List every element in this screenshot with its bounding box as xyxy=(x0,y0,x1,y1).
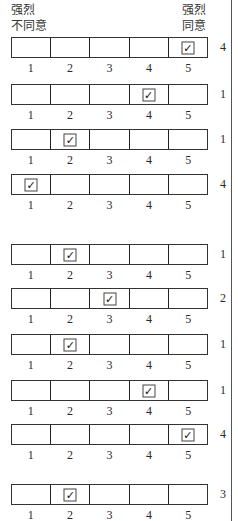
scale-number: 2 xyxy=(50,508,89,521)
scale-option-4[interactable] xyxy=(130,38,169,57)
scale-number: 3 xyxy=(90,358,129,373)
scale-number: 5 xyxy=(169,198,208,213)
scale-number: 4 xyxy=(129,153,168,168)
scale-option-1[interactable] xyxy=(12,38,51,57)
scale-option-5[interactable] xyxy=(169,85,207,104)
scale-number: 5 xyxy=(169,312,208,327)
scale-number: 3 xyxy=(90,312,129,327)
scale-number: 4 xyxy=(129,448,168,463)
scale-option-4[interactable] xyxy=(130,335,169,354)
scale-option-1[interactable] xyxy=(12,245,51,264)
scale-number: 4 xyxy=(129,198,168,213)
scale-option-1[interactable] xyxy=(12,485,51,504)
likert-row: ✓ xyxy=(11,37,208,58)
row-score: 3 xyxy=(220,487,226,502)
scale-numbers: 12345 xyxy=(11,508,208,521)
scale-option-3[interactable] xyxy=(90,38,129,57)
scale-option-1[interactable] xyxy=(12,85,51,104)
scale-option-3[interactable] xyxy=(90,130,129,149)
scale-option-5[interactable] xyxy=(169,245,207,264)
scale-option-4[interactable] xyxy=(130,485,169,504)
scale-number: 2 xyxy=(50,198,89,213)
checkmark-icon: ✓ xyxy=(64,133,77,146)
scale-option-3[interactable] xyxy=(90,381,129,400)
label-line: 不同意 xyxy=(11,18,47,34)
scale-number: 1 xyxy=(11,153,50,168)
scale-option-3[interactable] xyxy=(90,425,129,444)
likert-row: ✓ xyxy=(11,380,208,401)
scale-option-1[interactable]: ✓ xyxy=(12,175,51,194)
row-score: 1 xyxy=(220,87,226,102)
scale-numbers: 12345 xyxy=(11,153,208,168)
scale-number: 2 xyxy=(50,268,89,283)
scale-option-1[interactable] xyxy=(12,130,51,149)
scale-number: 2 xyxy=(50,404,89,419)
strongly-agree-label: 强烈 同意 xyxy=(182,2,206,34)
scale-number: 2 xyxy=(50,448,89,463)
scale-numbers: 12345 xyxy=(11,404,208,419)
likert-row: ✓ xyxy=(11,424,208,445)
scale-option-5[interactable]: ✓ xyxy=(169,38,207,57)
scale-option-2[interactable]: ✓ xyxy=(51,335,90,354)
scale-option-3[interactable] xyxy=(90,175,129,194)
row-score: 4 xyxy=(220,427,226,442)
scale-number: 3 xyxy=(90,448,129,463)
scale-option-5[interactable] xyxy=(169,175,207,194)
scale-option-1[interactable] xyxy=(12,335,51,354)
scale-number: 4 xyxy=(129,358,168,373)
scale-option-3[interactable] xyxy=(90,245,129,264)
row-score: 1 xyxy=(220,383,226,398)
scale-option-4[interactable] xyxy=(130,245,169,264)
scale-number: 5 xyxy=(169,268,208,283)
scale-option-2[interactable]: ✓ xyxy=(51,245,90,264)
likert-row: ✓ xyxy=(11,334,208,355)
scale-number: 2 xyxy=(50,312,89,327)
scale-option-2[interactable] xyxy=(51,425,90,444)
scale-option-4[interactable]: ✓ xyxy=(130,85,169,104)
scale-option-3[interactable] xyxy=(90,85,129,104)
scale-option-3[interactable] xyxy=(90,335,129,354)
scale-option-3[interactable] xyxy=(90,485,129,504)
scale-numbers: 12345 xyxy=(11,268,208,283)
scale-option-2[interactable]: ✓ xyxy=(51,485,90,504)
scale-option-2[interactable] xyxy=(51,175,90,194)
scale-number: 4 xyxy=(129,108,168,123)
scale-option-2[interactable] xyxy=(51,38,90,57)
scale-option-4[interactable] xyxy=(130,175,169,194)
scale-option-5[interactable]: ✓ xyxy=(169,425,207,444)
scale-option-4[interactable] xyxy=(130,289,169,308)
checkmark-icon: ✓ xyxy=(103,292,116,305)
scale-number: 4 xyxy=(129,404,168,419)
scale-option-1[interactable] xyxy=(12,289,51,308)
likert-row: ✓ xyxy=(11,129,208,150)
scale-option-2[interactable]: ✓ xyxy=(51,130,90,149)
scale-number: 1 xyxy=(11,198,50,213)
likert-row: ✓ xyxy=(11,84,208,105)
scale-number: 2 xyxy=(50,153,89,168)
label-line: 同意 xyxy=(182,18,206,34)
scale-option-2[interactable] xyxy=(51,289,90,308)
scale-option-1[interactable] xyxy=(12,381,51,400)
scale-option-5[interactable] xyxy=(169,335,207,354)
likert-row: ✓ xyxy=(11,174,208,195)
scale-option-4[interactable] xyxy=(130,130,169,149)
likert-row: ✓ xyxy=(11,484,208,505)
scale-option-2[interactable] xyxy=(51,85,90,104)
scale-number: 2 xyxy=(50,61,89,76)
scale-option-1[interactable] xyxy=(12,425,51,444)
scale-number: 4 xyxy=(129,312,168,327)
checkmark-icon: ✓ xyxy=(181,428,194,441)
scale-number: 5 xyxy=(169,508,208,521)
scale-option-5[interactable] xyxy=(169,289,207,308)
scale-numbers: 12345 xyxy=(11,448,208,463)
scale-option-3[interactable]: ✓ xyxy=(90,289,129,308)
scale-option-4[interactable]: ✓ xyxy=(130,381,169,400)
checkmark-icon: ✓ xyxy=(64,338,77,351)
scale-numbers: 12345 xyxy=(11,198,208,213)
scale-option-5[interactable] xyxy=(169,381,207,400)
scale-option-5[interactable] xyxy=(169,485,207,504)
scale-option-2[interactable] xyxy=(51,381,90,400)
scale-number: 5 xyxy=(169,358,208,373)
scale-option-5[interactable] xyxy=(169,130,207,149)
scale-option-4[interactable] xyxy=(130,425,169,444)
